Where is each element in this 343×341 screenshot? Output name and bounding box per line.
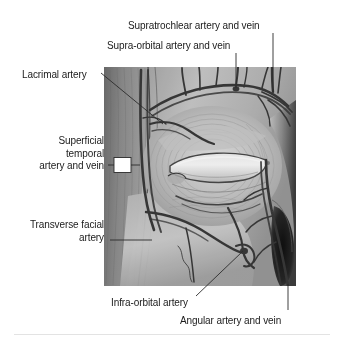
print-texture bbox=[104, 67, 296, 286]
label-angular: Angular artery and vein bbox=[180, 315, 281, 328]
illustration-body bbox=[104, 67, 296, 286]
label-superficial-temporal: Superficial temporal artery and vein bbox=[33, 135, 104, 173]
label-supratrochlear: Supratrochlear artery and vein bbox=[128, 20, 260, 33]
label-transverse-facial: Transverse facial artery bbox=[17, 219, 104, 244]
label-lacrimal-artery: Lacrimal artery bbox=[22, 69, 87, 82]
anatomical-figure: Supratrochlear artery and vein Supra-orb… bbox=[0, 0, 343, 341]
superficial-temporal-callout-box bbox=[114, 158, 131, 173]
label-supra-orbital: Supra-orbital artery and vein bbox=[107, 40, 230, 53]
label-infra-orbital: Infra-orbital artery bbox=[111, 297, 188, 310]
footer-divider bbox=[14, 334, 330, 335]
